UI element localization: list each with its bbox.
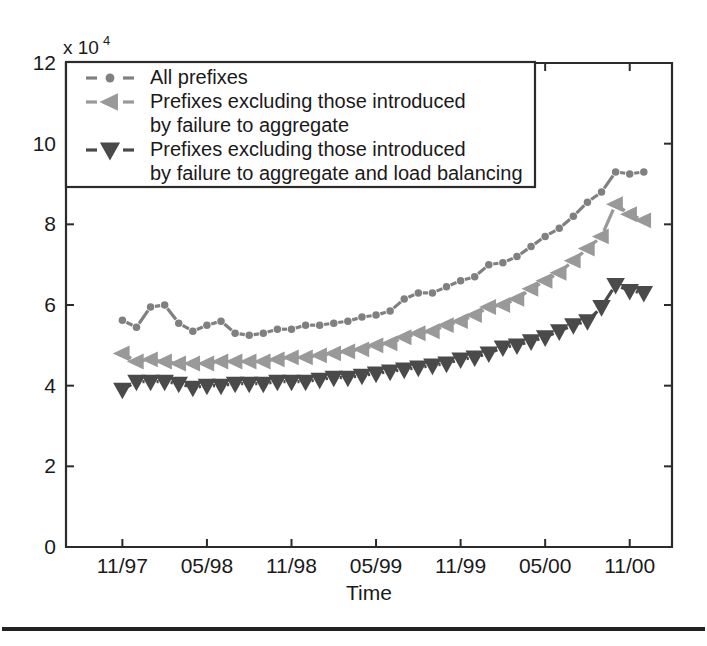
- series-connector: [352, 318, 357, 320]
- circle-marker: [415, 289, 422, 296]
- circle-marker: [612, 168, 619, 175]
- down-triangle-marker: [184, 381, 202, 398]
- series-connector: [451, 283, 457, 285]
- circle-marker: [485, 261, 492, 268]
- x-tick-label: 05/99: [350, 554, 403, 577]
- series-connector: [478, 268, 485, 274]
- series-connector: [380, 312, 385, 314]
- bottom-horizontal-rule: [2, 627, 705, 631]
- series-connector: [563, 219, 570, 225]
- circle-marker: [203, 321, 210, 328]
- series-connector: [268, 330, 273, 332]
- x-tick-label: 11/99: [435, 554, 486, 577]
- legend-label: Prefixes excluding those introduced: [150, 90, 466, 112]
- y-axis-exponent: x 10 4: [63, 33, 110, 58]
- circle-marker: [189, 327, 196, 334]
- series-connector: [139, 311, 148, 324]
- y-tick-label: 4: [44, 374, 56, 397]
- circle-marker: [541, 233, 548, 240]
- series-connector: [126, 322, 132, 325]
- circle-marker: [106, 74, 115, 83]
- y-tick-label: 0: [44, 535, 56, 558]
- series-connector: [620, 173, 625, 174]
- circle-marker: [457, 277, 464, 284]
- series-connector: [211, 322, 216, 324]
- series-connector: [254, 334, 259, 335]
- series-connector: [324, 324, 329, 325]
- series-2: [113, 196, 651, 371]
- chart-canvas: 024681012 11/9705/9811/9805/9911/9905/00…: [0, 0, 707, 646]
- circle-marker: [344, 317, 351, 324]
- circle-marker: [556, 225, 563, 232]
- legend-label: All prefixes: [150, 66, 248, 88]
- series-connector: [465, 278, 470, 280]
- circle-marker: [513, 253, 520, 260]
- y-exponent-power: 4: [103, 33, 110, 48]
- series-connector: [493, 263, 498, 264]
- series-connector: [408, 295, 414, 297]
- circle-marker: [570, 213, 577, 220]
- series-connector: [338, 322, 343, 323]
- circle-marker: [386, 307, 393, 314]
- circle-marker: [429, 289, 436, 296]
- circle-marker: [316, 321, 323, 328]
- circle-marker: [443, 283, 450, 290]
- series-connector: [634, 173, 639, 174]
- series-connector: [155, 306, 160, 307]
- x-tick-label: 05/00: [519, 554, 572, 577]
- chart-legend: All prefixesPrefixes excluding those int…: [66, 62, 535, 187]
- x-tick-label: 11/00: [604, 554, 655, 577]
- circle-marker: [640, 168, 647, 175]
- down-triangle-marker: [113, 383, 131, 400]
- series-connector: [197, 327, 203, 329]
- series-connector: [183, 325, 189, 329]
- circle-marker: [147, 303, 154, 310]
- data-series-group: [113, 168, 653, 399]
- series-connector: [521, 249, 528, 254]
- series-connector: [604, 210, 613, 231]
- left-triangle-marker: [606, 196, 623, 212]
- series-connector: [591, 195, 598, 200]
- circle-marker: [302, 321, 309, 328]
- circle-marker: [358, 313, 365, 320]
- circle-marker: [133, 323, 140, 330]
- series-1: [119, 168, 648, 339]
- series-connector: [366, 316, 371, 317]
- y-tick-label: 12: [33, 51, 56, 74]
- circle-marker: [245, 332, 252, 339]
- circle-marker: [161, 301, 168, 308]
- y-exponent-base: x 10: [63, 37, 99, 58]
- x-tick-label: 11/98: [266, 554, 317, 577]
- circle-marker: [400, 295, 407, 302]
- legend-label: by failure to aggregate and load balanci…: [150, 162, 523, 184]
- x-tick-label: 05/98: [181, 554, 234, 577]
- figure-container: 024681012 11/9705/9811/9805/9911/9905/00…: [0, 0, 707, 646]
- circle-marker: [471, 273, 478, 280]
- series-connector: [437, 289, 443, 291]
- series-connector: [577, 205, 585, 213]
- series-connector: [535, 239, 542, 244]
- circle-marker: [274, 325, 281, 332]
- series-connector: [507, 258, 513, 260]
- legend-label: Prefixes excluding those introduced: [150, 138, 466, 160]
- y-tick-label: 2: [44, 454, 56, 477]
- circle-marker: [330, 319, 337, 326]
- circle-marker: [372, 311, 379, 318]
- y-tick-label: 6: [44, 293, 56, 316]
- circle-marker: [288, 325, 295, 332]
- x-axis-title: Time: [346, 581, 392, 604]
- series-connector: [394, 302, 401, 308]
- y-tick-label: 10: [33, 132, 56, 155]
- circle-marker: [231, 329, 238, 336]
- circle-marker: [119, 317, 126, 324]
- series-connector: [167, 309, 176, 320]
- y-tick-label: 8: [44, 212, 56, 235]
- circle-marker: [626, 170, 633, 177]
- x-tick-label: 11/97: [97, 554, 148, 577]
- legend-label: by failure to aggregate: [150, 114, 349, 136]
- circle-marker: [175, 319, 182, 326]
- series-connector: [549, 231, 555, 235]
- series-connector: [240, 334, 245, 335]
- left-triangle-marker: [113, 345, 130, 361]
- circle-marker: [527, 243, 534, 250]
